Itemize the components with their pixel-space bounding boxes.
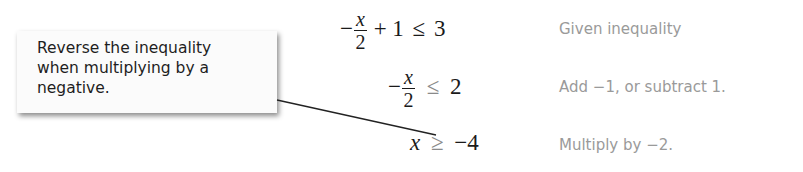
step-2-note: Add −1, or subtract 1. <box>559 78 726 96</box>
numerator: x <box>402 66 415 89</box>
left-hand-side: x <box>410 130 420 155</box>
step-2-equation: −x2 ≤ 2 <box>388 66 462 111</box>
step-3-equation: x ≥ −4 <box>410 130 479 156</box>
denominator: 2 <box>402 89 415 111</box>
plus-term: + 1 <box>374 16 404 41</box>
callout-line-1: Reverse the inequality <box>37 38 277 58</box>
fraction: x2 <box>402 66 415 111</box>
callout-line-3: negative. <box>37 78 277 98</box>
numerator: x <box>354 8 367 31</box>
relation-symbol: ≤ <box>427 74 440 99</box>
tip-callout-box: Reverse the inequality when multiplying … <box>17 31 277 113</box>
fraction: x2 <box>354 8 367 53</box>
minus-sign: − <box>388 74 401 99</box>
right-hand-side: −4 <box>454 130 478 155</box>
right-hand-side: 3 <box>434 16 446 41</box>
minus-sign: − <box>340 16 353 41</box>
step-1-equation: −x2 + 1 ≤ 3 <box>340 8 445 53</box>
denominator: 2 <box>354 31 367 53</box>
step-3-note: Multiply by −2. <box>559 136 673 154</box>
step-1-note: Given inequality <box>559 20 681 38</box>
callout-line-2: when multiplying by a <box>37 58 277 78</box>
right-hand-side: 2 <box>450 74 462 99</box>
relation-symbol: ≥ <box>431 130 444 155</box>
relation-symbol: ≤ <box>413 16 426 41</box>
